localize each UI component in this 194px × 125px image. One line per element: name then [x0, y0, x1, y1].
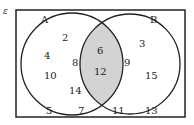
element: 9: [124, 57, 130, 68]
universal-set-symbol: ε: [3, 6, 8, 16]
venn-diagram: ε A B 2 4 8 10 14 6 12 3 9 15 5 7 11 13: [0, 0, 194, 125]
element: 2: [62, 32, 68, 43]
element: 7: [78, 105, 84, 116]
set-a-label: A: [40, 14, 49, 25]
set-b-label: B: [150, 14, 157, 25]
element: 6: [97, 45, 103, 56]
element: 8: [72, 57, 78, 68]
element: 14: [69, 85, 82, 96]
element: 3: [139, 38, 145, 49]
element: 4: [44, 50, 50, 61]
element: 15: [145, 70, 158, 81]
element: 13: [145, 105, 158, 116]
element: 12: [94, 66, 107, 77]
element: 11: [112, 105, 125, 116]
element: 10: [44, 70, 57, 81]
element: 5: [46, 105, 52, 116]
